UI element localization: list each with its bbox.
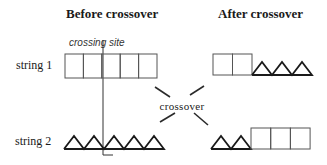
crossover-arrow-bottom-right — [194, 113, 208, 125]
string-2-label: string 2 — [15, 134, 51, 148]
crossover-x-marker: crossover — [155, 86, 208, 125]
crossover-arrow-top-left — [155, 87, 170, 97]
crossover-label: crossover — [160, 100, 205, 112]
gene-box — [290, 128, 310, 149]
before-crossover-title: Before crossover — [66, 6, 159, 21]
crossing-site-label: crossing site — [69, 37, 125, 48]
gene-triangles — [252, 62, 312, 75]
before-string-1 — [65, 54, 157, 78]
gene-box — [233, 54, 253, 75]
gene-box — [120, 54, 138, 78]
after-crossover-title: After crossover — [218, 6, 303, 21]
gene-box — [83, 54, 101, 78]
crossover-arrow-top-right — [190, 86, 204, 95]
after-string-2 — [211, 128, 310, 149]
gene-triangles — [211, 136, 251, 149]
gene-box — [213, 54, 233, 75]
after-string-1 — [213, 54, 312, 75]
crossover-diagram: Before crossover After crossover string … — [0, 0, 327, 165]
gene-box — [102, 54, 120, 78]
before-string-2 — [64, 136, 164, 149]
crossover-arrow-bottom-left — [160, 113, 175, 122]
string-1-label: string 1 — [16, 58, 52, 72]
gene-box — [139, 54, 157, 78]
gene-box — [65, 54, 83, 78]
gene-box — [251, 128, 271, 149]
gene-box — [271, 128, 291, 149]
gene-triangles — [64, 136, 164, 149]
